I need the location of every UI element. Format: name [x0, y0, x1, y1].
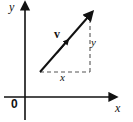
origin-label: 0 — [11, 98, 18, 110]
x-axis-label: x — [115, 102, 120, 114]
vector-component-diagram: y x 0 x y v — [0, 0, 133, 122]
x-component-label: x — [60, 72, 65, 83]
vector-direction-marker-icon — [57, 43, 66, 54]
diagram-canvas — [0, 0, 133, 122]
y-axis-label: y — [9, 1, 14, 13]
y-component-label: y — [91, 37, 96, 48]
vector-label: v — [54, 28, 60, 40]
